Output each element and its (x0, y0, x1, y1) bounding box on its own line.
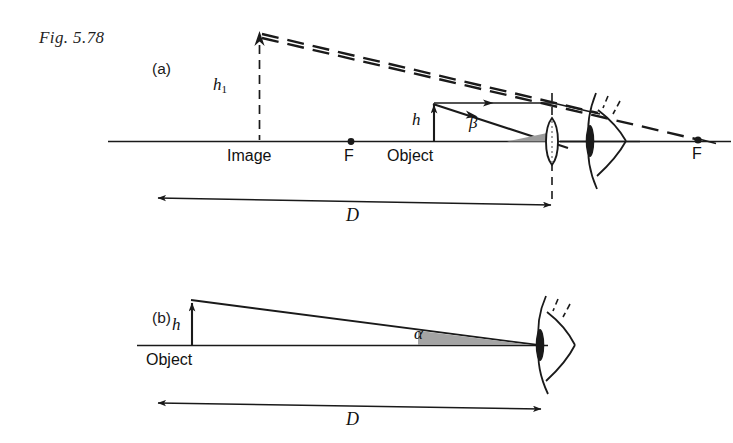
angle-label-beta: β (469, 114, 477, 131)
eye-icon-b (536, 296, 575, 394)
virtual-ray-upper (262, 34, 598, 113)
distance-label-a: D (346, 206, 359, 224)
object-label-b: Object (146, 352, 192, 368)
distance-label-b: D (346, 410, 359, 428)
panel-label-a: (a) (152, 61, 171, 77)
object-height-label-b: h (172, 316, 181, 333)
angle-label-alpha: α (414, 325, 423, 342)
figure-caption: Fig. 5.78 (39, 29, 104, 46)
panel-b (137, 296, 575, 409)
virtual-ray-lower (262, 38, 700, 140)
focal-point-left-dot (348, 138, 355, 145)
object-label-a: Object (387, 148, 433, 164)
distance-dimension-a (158, 198, 551, 205)
chief-ray-b (191, 300, 538, 345)
focal-point-left-label: F (344, 148, 354, 164)
focal-point-right-label: F (692, 146, 702, 162)
image-height-label: h1 (213, 76, 227, 95)
object-height-label-a: h (412, 111, 421, 128)
panel-label-b: (b) (152, 310, 171, 326)
image-label: Image (227, 148, 271, 164)
optics-figure (0, 0, 733, 443)
